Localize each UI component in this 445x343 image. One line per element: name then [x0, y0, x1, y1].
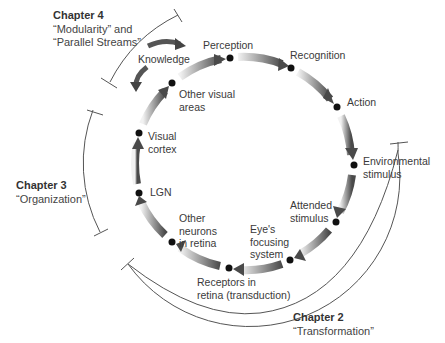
label-other-visual-areas: Other visual areas	[179, 88, 235, 113]
label-action: Action	[347, 96, 376, 109]
label-knowledge: Knowledge	[138, 53, 190, 66]
label-attended-stimulus: Attended stimulus	[290, 199, 332, 224]
chapter-4-subtitle: “Modularity” and “Parallel Streams”	[53, 23, 141, 49]
chapter-3-title: Chapter 3	[16, 179, 67, 192]
chapter-2-title: Chapter 2	[293, 311, 344, 324]
label-eyes-focusing-system: Eye's focusing system	[250, 223, 289, 261]
chapter-2-subtitle: “Transformation”	[293, 325, 374, 338]
label-receptors-in-retina: Receptors in retina (transduction)	[197, 276, 290, 301]
label-lgn: LGN	[150, 186, 172, 199]
label-recognition: Recognition	[290, 49, 345, 62]
chapter-4-title: Chapter 4	[53, 9, 104, 22]
label-perception: Perception	[203, 39, 253, 52]
chapter-3-subtitle: “Organization”	[16, 193, 86, 206]
label-other-neurons: Other neurons in retina	[179, 212, 217, 250]
label-visual-cortex: Visual cortex	[148, 130, 177, 155]
label-environmental-stimulus: Environmental stimulus	[363, 155, 430, 180]
chapter-3-bracket	[83, 110, 108, 236]
